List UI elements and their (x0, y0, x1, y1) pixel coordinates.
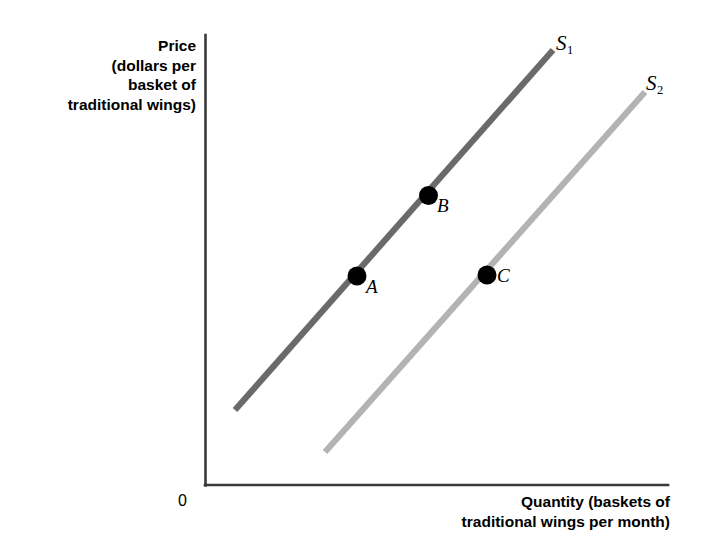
point-label-a: A (366, 277, 378, 296)
data-point-c (478, 266, 497, 285)
curve-label-s2-text: S (646, 71, 657, 95)
curve-label-s1-subscript: 1 (567, 43, 573, 57)
supply-curve-s1 (235, 50, 553, 410)
point-label-c: C (497, 266, 510, 285)
data-point-a (348, 267, 367, 286)
curve-label-s2: S2 (646, 73, 663, 97)
supply-curve-figure: Price (dollars per basket of traditional… (0, 0, 702, 552)
curve-label-s1: S1 (556, 33, 573, 57)
data-point-b (419, 186, 438, 205)
curve-label-s2-subscript: 2 (657, 83, 663, 97)
curve-label-s1-text: S (556, 31, 567, 55)
point-label-b: B (437, 196, 449, 215)
plot-area (0, 0, 702, 552)
